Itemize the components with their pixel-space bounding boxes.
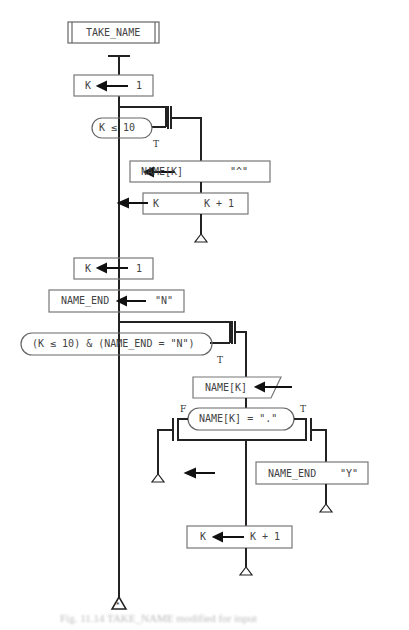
decision-condition-text: NAME[K] = "." bbox=[199, 413, 277, 425]
loop1-body2-target: K bbox=[153, 198, 159, 210]
loop2-init-value: 1 bbox=[136, 263, 142, 275]
increment-value: K + 1 bbox=[250, 531, 280, 543]
true-action-value: "Y" bbox=[340, 468, 358, 480]
decision-false-label: F bbox=[180, 403, 186, 415]
procedure-title: TAKE_NAME bbox=[86, 27, 140, 39]
true-action-target: NAME_END bbox=[268, 468, 316, 480]
loop2-init2-target: NAME_END bbox=[61, 295, 109, 307]
end-marker: * bbox=[116, 601, 120, 609]
loop1-body1-value: "^" bbox=[230, 166, 248, 178]
figure-caption: Fig. 11.14 TAKE_NAME modified for input bbox=[60, 612, 409, 624]
loop2-init2-value: "N" bbox=[155, 295, 173, 307]
loop1-init-value: 1 bbox=[136, 80, 142, 92]
loop1-init-target: K bbox=[85, 80, 91, 92]
input-target: NAME[K] bbox=[205, 382, 247, 394]
loop1-true-label: T bbox=[153, 138, 159, 150]
loop1-condition-text: K ≤ 10 bbox=[99, 122, 135, 134]
loop2-condition-text: (K ≤ 10) & (NAME_END = "N") bbox=[32, 338, 195, 350]
loop1-body1-target: NAME[K] bbox=[141, 166, 183, 178]
loop1-body2-value: K + 1 bbox=[204, 198, 234, 210]
loop2-init-target: K bbox=[85, 263, 91, 275]
increment-target: K bbox=[200, 531, 206, 543]
loop2-true-label: T bbox=[217, 354, 223, 366]
decision-true-label: T bbox=[300, 403, 306, 415]
